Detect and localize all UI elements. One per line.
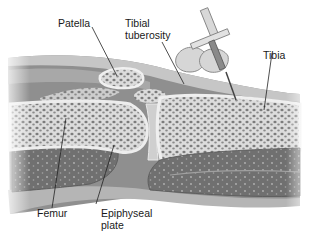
femur-bone bbox=[10, 101, 147, 153]
label-epiphyseal-plate-line2: plate bbox=[101, 219, 124, 231]
label-tibia: Tibia bbox=[263, 49, 285, 61]
patella-bone bbox=[100, 68, 143, 88]
label-tibial-tuberosity-line2: tuberosity bbox=[125, 29, 171, 41]
knee-intraosseous-diagram: Patella Tibial tuberosity Tibia Femur Ep… bbox=[0, 0, 316, 238]
label-epiphyseal-plate-line1: Epiphyseal bbox=[101, 207, 152, 219]
label-femur: Femur bbox=[37, 207, 67, 219]
label-patella: Patella bbox=[58, 17, 90, 29]
label-tibial-tuberosity-line1: Tibial bbox=[125, 17, 150, 29]
